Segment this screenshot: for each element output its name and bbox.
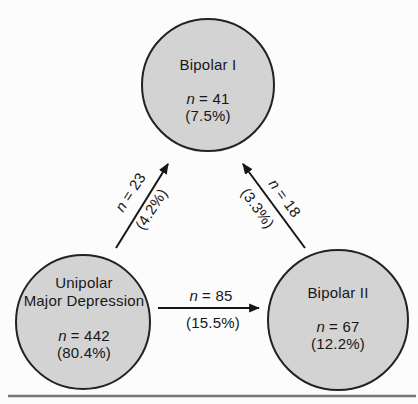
bipolar-1-node-label: Bipolar I: [180, 56, 237, 74]
n-value: = 442: [71, 327, 110, 344]
n-symbol: n: [317, 318, 326, 335]
n-value: = 67: [329, 318, 359, 335]
n-value: = 85: [202, 287, 232, 304]
bipolar-2-node-label: Bipolar II: [307, 284, 368, 302]
unipolar-label-line-1: Unipolar: [24, 274, 145, 292]
unipolar-pct-line: (80.4%): [57, 344, 111, 361]
bipolar-1-node-stats: n= 41 (7.5%): [185, 90, 230, 124]
unipolar-label-line-2: Major Depression: [24, 292, 145, 310]
n-symbol: n: [190, 287, 199, 304]
unipolar-node-stats: n= 442 (80.4%): [57, 327, 111, 361]
edge-unipolar-bipolar2-pct-label: (15.5%): [186, 314, 240, 331]
n-symbol: n: [187, 90, 196, 107]
bipolar-1-node-circle: [142, 19, 274, 151]
n-value: = 41: [199, 90, 229, 107]
bipolar-1-pct-line: (7.5%): [185, 107, 230, 124]
bipolar-1-n-line: n= 41: [185, 90, 230, 107]
edge-unipolar-bipolar2-n-label: n= 85: [190, 287, 233, 304]
bipolar-2-n-line: n= 67: [311, 318, 365, 335]
bipolar-2-node-stats: n= 67 (12.2%): [311, 318, 365, 352]
n-symbol: n: [58, 327, 67, 344]
unipolar-n-line: n= 442: [57, 327, 111, 344]
comorbidity-flow-diagram: Bipolar I n= 41 (7.5%) Unipolar Major De…: [0, 0, 418, 404]
unipolar-node-label: Unipolar Major Depression: [24, 274, 145, 310]
bipolar-2-pct-line: (12.2%): [311, 335, 365, 352]
